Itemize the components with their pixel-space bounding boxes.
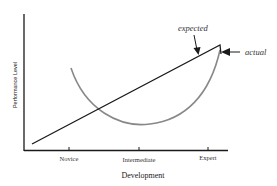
annotation-expected: expected <box>178 23 208 33</box>
y-axis-title: Performance Level <box>12 62 18 108</box>
expected-line <box>32 45 221 144</box>
chart-canvas: expected actual Novice Intermediate Expe… <box>0 0 277 186</box>
actual-arrow-head-icon <box>221 48 230 56</box>
tick-label-expert: Expert <box>199 154 217 161</box>
annotation-actual: actual <box>245 47 267 57</box>
tick-label-intermediate: Intermediate <box>123 156 156 163</box>
expected-arrow-head-icon <box>194 47 201 55</box>
tick-label-novice: Novice <box>60 155 79 162</box>
actual-curve <box>71 50 220 125</box>
x-axis-title: Development <box>121 171 165 180</box>
